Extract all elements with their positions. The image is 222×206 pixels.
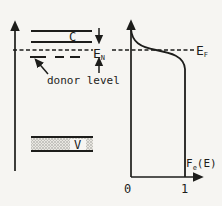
donor-gap-subscript: N <box>101 54 105 62</box>
figure-svg: C EN donor level V EF Fe(E) <box>0 0 222 206</box>
donor-gap-symbol: E <box>93 46 101 61</box>
occupation-symbol: F <box>186 157 193 170</box>
conduction-band-label: C <box>69 30 76 44</box>
fermi-level-label: EF <box>196 43 208 59</box>
distribution-plot-panel: EF Fe(E) 0 1 <box>112 22 217 196</box>
fermi-dirac-curve <box>131 29 185 177</box>
fermi-level-symbol: E <box>196 43 204 58</box>
occupation-axis-label: Fe(E) <box>186 157 217 172</box>
donor-level-label: donor level <box>47 74 120 87</box>
x-tick-zero: 0 <box>124 182 131 196</box>
x-tick-one: 1 <box>181 182 188 196</box>
band-diagram-panel: C EN donor level V <box>13 23 120 171</box>
donor-gap-label: EN <box>93 46 105 62</box>
fermi-level-subscript: F <box>204 51 208 59</box>
donor-annotation-arrow-icon <box>36 60 48 74</box>
valence-band-label: V <box>74 138 81 152</box>
occupation-argument: (E) <box>197 157 217 170</box>
band-diagram-figure: C EN donor level V EF Fe(E) <box>0 0 222 206</box>
